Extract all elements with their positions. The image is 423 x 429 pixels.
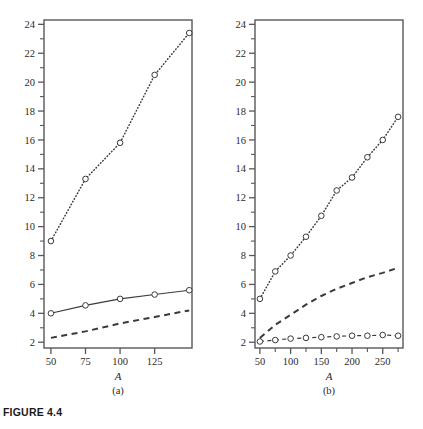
data-point-upper-dotted-b (334, 188, 340, 194)
y-tick-label-b: 12 (236, 192, 247, 203)
data-point-upper-dotted-a (83, 176, 89, 182)
data-point-lower-dashed-circles-b (380, 332, 386, 338)
y-tick-label-a: 14 (25, 163, 36, 174)
y-tick-label-b: 14 (236, 163, 247, 174)
x-tick-label-a: 75 (80, 356, 91, 367)
y-tick-label-a: 24 (25, 19, 36, 30)
data-point-upper-dotted-b (395, 114, 401, 120)
y-tick-label-a: 2 (30, 337, 35, 348)
y-tick-label-b: 8 (241, 250, 246, 261)
y-tick-label-a: 6 (30, 279, 35, 290)
y-tick-label-b: 24 (236, 19, 247, 30)
y-tick-label-a: 16 (25, 135, 36, 146)
data-point-upper-dotted-b (303, 234, 309, 240)
data-point-lower-dashed-circles-b (319, 334, 325, 340)
data-point-upper-dotted-b (272, 269, 278, 275)
data-point-upper-dotted-b (257, 296, 263, 302)
panel-label-b: (b) (323, 385, 336, 397)
data-point-lower-dashed-circles-b (334, 334, 340, 340)
y-tick-label-b: 4 (241, 308, 247, 319)
x-tick-label-b: 100 (283, 356, 299, 367)
chart-panel-b: 2468101214161820222450100150200250A(b) (211, 0, 423, 400)
y-tick-label-b: 10 (236, 221, 247, 232)
figure-caption: FIGURE 4.4 (3, 406, 62, 418)
y-tick-label-a: 22 (25, 48, 36, 59)
y-tick-label-b: 16 (236, 135, 247, 146)
data-point-middle-solid-a (117, 296, 123, 302)
y-tick-label-b: 18 (236, 106, 247, 117)
y-tick-label-a: 12 (25, 192, 36, 203)
figure-container: 246810121416182022245075100125A(a) 24681… (0, 0, 423, 429)
chart-panel-a: 246810121416182022245075100125A(a) (0, 0, 212, 400)
data-point-middle-solid-a (152, 292, 158, 298)
data-point-upper-dotted-b (365, 154, 371, 160)
chart-canvas-a: 246810121416182022245075100125A(a) (0, 0, 212, 400)
x-tick-label-a: 100 (112, 356, 128, 367)
data-point-upper-dotted-b (380, 137, 386, 143)
x-tick-label-b: 150 (313, 356, 329, 367)
series-line-lower-dashed-circles-b (260, 335, 398, 342)
data-point-lower-dashed-circles-b (349, 333, 355, 339)
data-point-lower-dashed-circles-b (272, 337, 278, 343)
y-tick-label-a: 8 (30, 250, 35, 261)
data-point-middle-solid-a (186, 287, 192, 293)
series-line-middle-dashed-b (260, 268, 398, 338)
y-tick-label-a: 20 (25, 77, 36, 88)
data-point-upper-dotted-b (349, 175, 355, 181)
data-point-upper-dotted-a (186, 30, 192, 36)
x-tick-label-b: 200 (344, 356, 360, 367)
data-point-lower-dashed-circles-b (303, 335, 309, 341)
data-point-upper-dotted-a (117, 140, 123, 146)
x-axis-title-b: A (325, 370, 333, 382)
y-tick-label-b: 6 (241, 279, 246, 290)
series-line-upper-dotted-b (260, 117, 398, 299)
data-point-upper-dotted-b (319, 213, 325, 219)
y-tick-label-b: 2 (241, 337, 246, 348)
y-tick-label-b: 20 (236, 77, 247, 88)
data-point-lower-dashed-circles-b (395, 333, 401, 339)
plot-frame-b (255, 20, 403, 348)
data-point-upper-dotted-b (288, 253, 294, 259)
chart-canvas-b: 2468101214161820222450100150200250A(b) (211, 0, 423, 400)
data-point-upper-dotted-a (48, 238, 54, 244)
y-tick-label-a: 4 (30, 308, 36, 319)
series-line-lower-dashed-a (51, 310, 189, 337)
x-tick-label-a: 50 (46, 356, 57, 367)
x-tick-label-b: 50 (255, 356, 266, 367)
data-point-middle-solid-a (83, 303, 89, 309)
x-tick-label-a: 125 (147, 356, 163, 367)
data-point-middle-solid-a (48, 311, 54, 317)
x-axis-title-a: A (114, 370, 122, 382)
data-point-lower-dashed-circles-b (288, 336, 294, 342)
y-tick-label-a: 18 (25, 106, 36, 117)
data-point-upper-dotted-a (152, 72, 158, 78)
series-line-upper-dotted-a (51, 33, 189, 241)
x-tick-label-b: 250 (375, 356, 391, 367)
y-tick-label-a: 10 (25, 221, 36, 232)
panel-label-a: (a) (112, 385, 124, 397)
y-tick-label-b: 22 (236, 48, 247, 59)
data-point-lower-dashed-circles-b (257, 339, 263, 345)
data-point-lower-dashed-circles-b (365, 333, 371, 339)
